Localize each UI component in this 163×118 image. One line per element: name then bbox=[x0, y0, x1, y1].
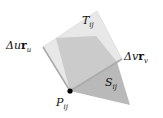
tangent-plane-diagram: Tij Δuru Δvrv Sij Pij bbox=[0, 0, 163, 118]
label-s: Sij bbox=[105, 76, 117, 91]
label-t: Tij bbox=[82, 14, 94, 29]
label-dv: Δvrv bbox=[124, 50, 148, 65]
label-du: Δuru bbox=[6, 39, 31, 54]
point-p bbox=[67, 88, 72, 93]
label-p: Pij bbox=[56, 96, 68, 111]
